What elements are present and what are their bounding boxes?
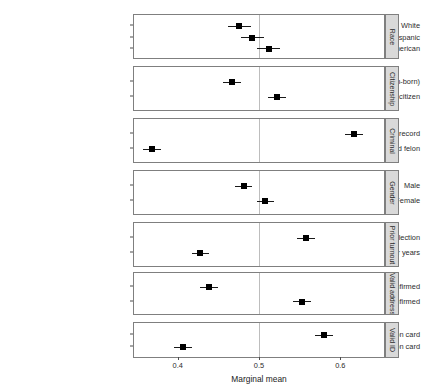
panel-strip-label: Criminal: [389, 128, 396, 154]
estimate-point: [241, 32, 264, 43]
reference-line: [259, 273, 260, 314]
reference-line: [259, 171, 260, 214]
reference-line: [259, 223, 260, 266]
panel-strip-label: Valid address: [389, 273, 396, 315]
panel-citizenship: [133, 66, 385, 111]
point-marker: [351, 131, 357, 137]
point-marker: [236, 23, 242, 29]
panel-valid-id: [133, 322, 385, 358]
panel-strip-valid-address: Valid address: [385, 272, 399, 315]
point-marker: [321, 332, 327, 338]
panel-strip-label: Gender: [389, 181, 396, 204]
estimate-point: [293, 296, 311, 307]
estimate-point: [345, 129, 363, 140]
x-axis-tick: [259, 357, 260, 360]
panel-strip-label: Valid ID: [389, 328, 396, 352]
x-axis-tick-label: 0.5: [254, 361, 264, 370]
panel-strip-label: Citizenship: [389, 71, 396, 105]
reference-line: [259, 119, 260, 162]
estimate-point: [228, 21, 251, 32]
panel-strip-gender: Gender: [385, 170, 399, 215]
point-marker: [303, 235, 309, 241]
panel-strip-citizenship: Citizenship: [385, 66, 399, 111]
estimate-point: [235, 181, 253, 192]
reference-line: [259, 323, 260, 357]
reference-line: [259, 67, 260, 110]
estimate-point: [192, 248, 210, 259]
x-axis-title: Marginal mean: [133, 374, 385, 384]
panel-strip-valid-id: Valid ID: [385, 322, 399, 358]
estimate-point: [257, 43, 280, 54]
panel-strip-label: Race: [389, 28, 396, 44]
x-axis-tick-label: 0.6: [335, 361, 345, 370]
estimate-point: [315, 330, 333, 341]
point-marker: [149, 146, 155, 152]
point-marker: [241, 183, 247, 189]
estimate-point: [200, 282, 218, 293]
estimate-point: [297, 233, 315, 244]
estimate-point: [257, 196, 275, 207]
panel-prior-turnout: [133, 222, 385, 267]
panel-strip-prior-turnout: Prior turnout: [385, 222, 399, 267]
panel-race: [133, 14, 385, 59]
estimate-point: [268, 92, 286, 103]
marginal-mean-forest-chart: Marginal mean WhiteHispanicAfrican Ameri…: [0, 0, 424, 391]
estimate-point: [174, 342, 192, 353]
estimate-point: [223, 77, 241, 88]
point-marker: [206, 284, 212, 290]
point-marker: [266, 46, 272, 52]
x-axis-tick: [178, 357, 179, 360]
point-marker: [249, 35, 255, 41]
x-axis-tick-label: 0.4: [173, 361, 183, 370]
panel-strip-label: Prior turnout: [389, 225, 396, 264]
panel-valid-address: [133, 272, 385, 315]
panel-strip-criminal: Criminal: [385, 118, 399, 163]
point-marker: [180, 344, 186, 350]
point-marker: [299, 299, 305, 305]
point-marker: [229, 79, 235, 85]
point-marker: [197, 250, 203, 256]
panel-criminal: [133, 118, 385, 163]
point-marker: [262, 198, 268, 204]
panel-gender: [133, 170, 385, 215]
point-marker: [274, 94, 280, 100]
panel-strip-race: Race: [385, 14, 399, 59]
estimate-point: [143, 144, 161, 155]
x-axis-tick: [340, 357, 341, 360]
